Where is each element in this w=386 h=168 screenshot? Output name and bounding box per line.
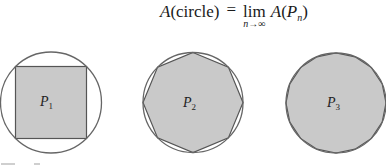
figure-p1: P1 — [1, 52, 102, 153]
cropped-caption-fragment — [0, 160, 60, 168]
caption-fragment-mark — [34, 163, 40, 165]
figure-p3: P3 — [286, 53, 386, 153]
figure-p2: P2 — [143, 53, 243, 153]
caption-fragment-mark — [1, 163, 15, 165]
inscribed-polygons-figure: P1 P2 P3 — [0, 0, 386, 168]
